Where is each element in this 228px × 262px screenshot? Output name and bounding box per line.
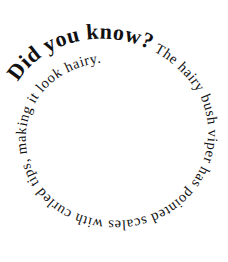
heading-text: Did you know? xyxy=(2,19,158,85)
spiral-text-graphic: Did you know? The hairy bush viper has p… xyxy=(0,0,228,262)
spiral-svg: Did you know? The hairy bush viper has p… xyxy=(0,0,228,262)
body-text: The hairy bush viper has pointed scales … xyxy=(13,38,222,234)
spiral-text: Did you know? The hairy bush viper has p… xyxy=(2,19,222,234)
